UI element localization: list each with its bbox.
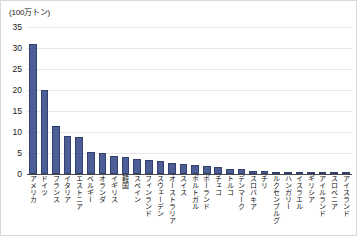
bar-slot <box>166 27 178 174</box>
bar-slot <box>213 27 225 174</box>
x-axis-tick: ポルトガル <box>189 175 201 235</box>
x-axis-tick-label: トルコ <box>226 175 233 196</box>
bar <box>180 164 188 174</box>
plot-area <box>27 27 352 174</box>
x-axis-tick: トルコ <box>224 175 236 235</box>
bar <box>29 44 37 174</box>
x-axis-tick-label: ポルトガル <box>191 175 198 210</box>
y-axis-unit-label: (100万トン) <box>9 6 50 17</box>
x-axis-tick-label: ドイツ <box>41 175 48 196</box>
x-axis-tick-label: フランス <box>52 175 59 203</box>
bar-slot <box>155 27 167 174</box>
x-axis-tick: デンマーク <box>236 175 248 235</box>
x-axis-tick: ポーランド <box>201 175 213 235</box>
x-axis-tick: スロベニア <box>328 175 340 235</box>
x-axis-tick-label: ルクセンブルグ <box>273 175 280 224</box>
bar-slot <box>120 27 132 174</box>
bar <box>52 126 60 174</box>
x-axis-tick-label: スイス <box>180 175 187 196</box>
x-axis-tick: イギリス <box>108 175 120 235</box>
x-axis-tick: イスラエル <box>294 175 306 235</box>
bar <box>284 172 292 174</box>
x-axis-tick: スウェーデン <box>155 175 167 235</box>
x-axis-tick: 韓国 <box>120 175 132 235</box>
bar <box>191 165 199 174</box>
x-axis-tick: チェコ <box>213 175 225 235</box>
y-axis-tick: 35 <box>13 22 22 32</box>
bar-slot <box>27 27 39 174</box>
bar-slot <box>282 27 294 174</box>
x-axis-tick: ドイツ <box>39 175 51 235</box>
bar <box>110 156 118 174</box>
bar <box>157 161 165 174</box>
x-axis-tick-label: スウェーデン <box>157 175 164 217</box>
x-axis-tick-label: 韓国 <box>122 175 129 189</box>
bar-series <box>27 27 352 174</box>
bar-slot <box>270 27 282 174</box>
x-axis-tick: エストニア <box>73 175 85 235</box>
x-axis-tick-label: イギリス <box>110 175 117 203</box>
bar-slot <box>189 27 201 174</box>
x-axis-tick: ハンガリー <box>282 175 294 235</box>
x-axis-tick-label: オーストラリア <box>168 175 175 224</box>
x-axis-tick-label: アイスランド <box>342 175 349 217</box>
x-axis-tick: スイス <box>178 175 190 235</box>
x-axis-tick: ベルギー <box>85 175 97 235</box>
x-axis-tick: オランダ <box>97 175 109 235</box>
x-axis-tick-label: スロバキア <box>249 175 256 210</box>
x-axis-tick-label: ポーランド <box>203 175 210 210</box>
x-axis-tick: アイルランド <box>317 175 329 235</box>
x-axis-tick: スロバキア <box>247 175 259 235</box>
bar-slot <box>131 27 143 174</box>
x-axis-tick-label: スロベニア <box>331 175 338 210</box>
bar-slot <box>201 27 213 174</box>
bar-slot <box>224 27 236 174</box>
bar <box>249 171 257 174</box>
x-axis-tick-label: ギリシア <box>307 175 314 203</box>
bar <box>122 157 130 174</box>
bar-chart: (100万トン) 05101520253035 アメリカドイツフランスイタリアエ… <box>0 0 357 236</box>
bar-slot <box>259 27 271 174</box>
bar <box>296 172 304 174</box>
bar <box>133 159 141 174</box>
x-axis-tick-label: デンマーク <box>238 175 245 210</box>
bar <box>168 163 176 174</box>
y-axis-tick-labels: 05101520253035 <box>1 27 25 174</box>
y-axis-tick: 15 <box>13 106 22 116</box>
bar <box>145 160 153 174</box>
bar-slot <box>50 27 62 174</box>
bar <box>87 152 95 174</box>
x-axis-tick: ルクセンブルグ <box>270 175 282 235</box>
bar-slot <box>178 27 190 174</box>
bar <box>330 172 338 174</box>
y-axis-tick: 30 <box>13 43 22 53</box>
x-axis-tick-label: イタリア <box>64 175 71 203</box>
bar <box>64 136 72 174</box>
bar-slot <box>97 27 109 174</box>
bar-slot <box>340 27 352 174</box>
y-axis-tick: 10 <box>13 127 22 137</box>
bar-slot <box>143 27 155 174</box>
bar <box>226 169 234 174</box>
x-axis-tick: アメリカ <box>27 175 39 235</box>
x-axis-tick: ギリシア <box>305 175 317 235</box>
bar <box>99 153 107 174</box>
bar <box>214 167 222 174</box>
y-axis-tick: 25 <box>13 64 22 74</box>
bar <box>342 172 350 174</box>
x-axis-tick: フランス <box>50 175 62 235</box>
bar-slot <box>39 27 51 174</box>
bar-slot <box>62 27 74 174</box>
bar-slot <box>294 27 306 174</box>
bar <box>238 169 246 174</box>
x-axis-tick: オーストラリア <box>166 175 178 235</box>
bar-slot <box>328 27 340 174</box>
x-axis-tick: フィンランド <box>143 175 155 235</box>
bar <box>75 137 83 174</box>
x-axis-tick: アイスランド <box>340 175 352 235</box>
x-axis-tick: チリ <box>259 175 271 235</box>
x-axis-tick-label: オランダ <box>99 175 106 203</box>
x-axis-tick: イタリア <box>62 175 74 235</box>
x-axis-tick-label: ベルギー <box>87 175 94 203</box>
x-axis-tick-label: スペイン <box>133 175 140 203</box>
